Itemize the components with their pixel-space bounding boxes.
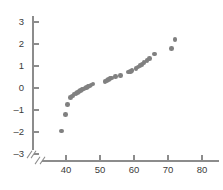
y-tick [34,65,39,66]
y-tick-label: 3 [8,17,24,27]
y-tick-label: –3 [8,149,24,159]
y-tick [34,21,39,22]
y-tick [34,43,39,44]
x-tick-label: 80 [190,165,214,175]
x-tick-label: 60 [122,165,146,175]
x-tick [65,155,66,160]
x-tick-label: 70 [156,165,180,175]
scatter-point [169,46,174,51]
x-tick-label: 40 [54,165,78,175]
x-axis-line [42,160,219,162]
y-tick [34,153,39,154]
x-tick-label: 50 [88,165,112,175]
x-tick [201,155,202,160]
x-tick [133,155,134,160]
scatter-point [152,52,157,57]
scatter-point [118,73,123,78]
x-tick [167,155,168,160]
qq-plot: 3210–1–2–3 4050607080 [0,0,223,190]
y-tick [34,131,39,132]
scatter-point [65,102,70,107]
scatter-point [91,82,96,87]
scatter-point [147,56,152,61]
y-tick-label: –2 [8,127,24,137]
scatter-point [63,112,68,117]
y-tick-label: 0 [8,83,24,93]
x-tick [99,155,100,160]
scatter-point [173,37,178,42]
scatter-point [59,129,64,134]
y-tick-label: 2 [8,39,24,49]
y-tick [34,87,39,88]
y-tick-label: –1 [8,105,24,115]
y-tick [34,109,39,110]
y-axis-line [32,16,34,150]
y-tick-label: 1 [8,61,24,71]
